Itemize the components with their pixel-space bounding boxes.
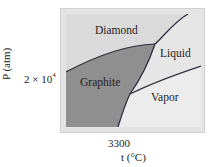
x-axis-label: t (°C) <box>121 151 146 163</box>
y-axis-tick: 2 × 104 <box>24 73 56 85</box>
y-axis-label: P (atm) <box>0 48 12 80</box>
x-axis-tick: 3300 <box>108 137 130 149</box>
vapor-label: Vapor <box>151 91 178 103</box>
liquid-label: Liquid <box>160 47 191 59</box>
diamond-label: Diamond <box>95 24 138 36</box>
graphite-label: Graphite <box>80 76 120 88</box>
